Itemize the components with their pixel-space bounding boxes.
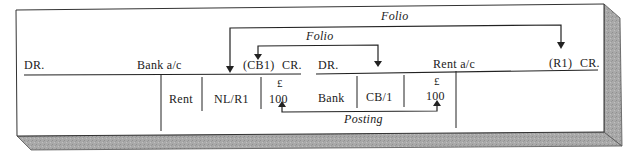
bank-account-title: Bank a/c [137, 58, 182, 73]
rent-folio-ref: (R1) [549, 56, 572, 71]
rent-entry-details: Bank [318, 91, 345, 106]
posting-label: Posting [344, 112, 383, 127]
bank-cr-label: CR. [282, 58, 302, 73]
shadow-right [604, 4, 622, 146]
folio-outer-label: Folio [381, 9, 409, 24]
bank-folio-ref: (CB1) [243, 58, 275, 73]
bank-entry-folio: NL/R1 [214, 92, 249, 107]
bank-dr-label: DR. [24, 58, 45, 73]
ledger-box [16, 4, 604, 136]
rent-account-title: Rent a/c [433, 57, 475, 72]
rent-entry-folio: CB/1 [366, 90, 393, 105]
rent-entry-amount: 100 [426, 89, 445, 104]
rent-cr-label: CR. [580, 56, 600, 71]
diagram-frame [0, 0, 638, 157]
bank-entry-amount: 100 [269, 92, 288, 107]
rent-dr-label: DR. [318, 58, 339, 73]
folio-inner-label: Folio [306, 29, 334, 44]
bank-entry-currency: £ [277, 77, 283, 89]
rent-entry-currency: £ [434, 75, 440, 87]
bank-entry-details: Rent [169, 92, 193, 107]
